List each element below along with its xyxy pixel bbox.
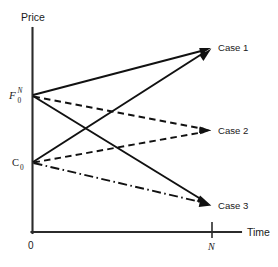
y-label-f0n-base: F — [8, 89, 16, 101]
annotation-case-2: Case 2 — [218, 125, 248, 136]
y-label-c0-base: C — [12, 157, 19, 168]
y-label-f0n-subscript: 0 — [18, 96, 22, 105]
series-line-c0-to-case3 — [34, 163, 206, 203]
series-line-c0-to-case2 — [34, 132, 205, 163]
y-axis-title: Price — [21, 11, 45, 23]
series-line-c0-to-case1 — [33, 52, 205, 162]
annotation-case-3: Case 3 — [218, 200, 248, 211]
x-axis-title: Time — [247, 226, 270, 238]
y-value-labels-group: F 0 N C 0 — [8, 86, 24, 172]
series-line-f0n-to-case1 — [33, 50, 205, 95]
series-group — [33, 48, 211, 207]
chart-figure: Price Time 0 N F 0 N C 0 Case 1 Case 2 C… — [0, 0, 278, 267]
x-tick-label-N: N — [207, 241, 216, 252]
case-annotations-group: Case 1 Case 2 Case 3 — [218, 42, 248, 211]
y-label-c0-subscript: 0 — [20, 163, 24, 172]
axes-group — [32, 28, 242, 238]
annotation-case-1: Case 1 — [218, 42, 248, 53]
price-time-case-diagram: Price Time 0 N F 0 N C 0 Case 1 Case 2 C… — [0, 0, 278, 267]
origin-label: 0 — [28, 240, 34, 251]
y-label-f0n-superscript: N — [17, 86, 24, 95]
